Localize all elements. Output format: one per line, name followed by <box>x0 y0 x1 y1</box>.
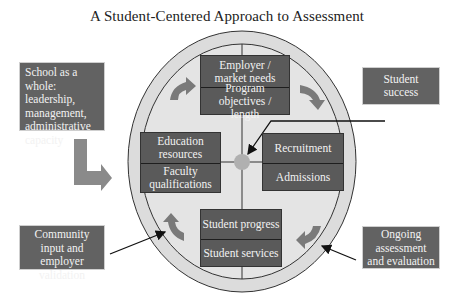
ongoing-assessment-box: Ongoing assessment and evaluation <box>362 226 440 269</box>
student-success-box: Student success <box>362 67 440 105</box>
faculty-qualifications: Faculty qualifications <box>141 163 220 192</box>
admissions: Admissions <box>263 163 343 190</box>
education-resources: Education resources <box>141 133 220 163</box>
box-right: Recruitment Admissions <box>262 133 344 191</box>
school-as-a-whole-box: School as a whole: leadership, managemen… <box>19 62 105 131</box>
box-bottom: Student progress Student services <box>200 209 282 267</box>
student-progress: Student progress <box>201 210 281 239</box>
box-top: Employer / market needs Program objectiv… <box>200 55 290 115</box>
recruitment: Recruitment <box>263 134 343 163</box>
l-arrow-icon <box>74 139 112 191</box>
student-services: Student services <box>201 239 281 266</box>
program-objectives-length: Program objectives / length <box>201 87 289 114</box>
community-input-box: Community input and employer validation <box>19 225 105 270</box>
box-left: Education resources Faculty qualificatio… <box>140 132 221 193</box>
center-dot <box>234 154 250 170</box>
